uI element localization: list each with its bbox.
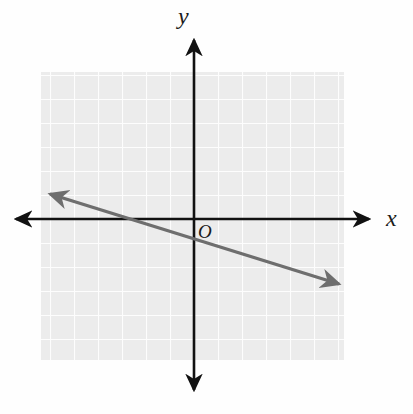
x-axis-label: x xyxy=(386,206,397,230)
graph-canvas xyxy=(0,0,413,414)
origin-label: O xyxy=(198,222,212,241)
coordinate-plane-figure: y x O xyxy=(0,0,413,414)
y-axis-label: y xyxy=(178,4,189,28)
grid-background xyxy=(41,72,344,360)
